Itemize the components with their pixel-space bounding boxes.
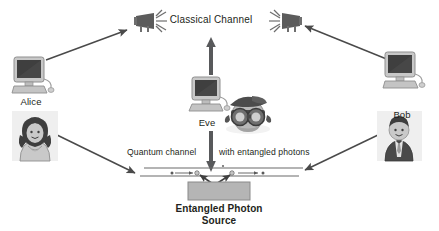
quantum-channel-rails <box>140 168 303 176</box>
diagram-vector-layer <box>0 0 439 231</box>
eve-label: Eve <box>199 118 216 128</box>
quantum-channel-label-left: Quantum channel <box>127 148 196 157</box>
entangled-photon-source-label: Entangled Photon Source <box>175 203 262 226</box>
eve-spy-avatar-icon <box>225 96 271 134</box>
arrow-bob-person-to-quantum-channel <box>305 135 378 170</box>
alice-avatar-icon <box>12 111 58 161</box>
qkd-eavesdropping-diagram: Classical Channel Alice Bob Eve Quantum … <box>0 0 439 231</box>
photon-markers <box>171 165 265 175</box>
quantum-channel-label-right: with entangled photons <box>219 148 310 157</box>
bob-computer-icon <box>383 52 425 88</box>
arrow-alice-person-to-quantum-channel <box>57 135 135 173</box>
source-label-line1: Entangled Photon <box>175 203 262 214</box>
arrow-eve-to-classical-channel <box>206 37 216 75</box>
entangled-photon-source-box <box>188 182 250 200</box>
bob-label: Bob <box>393 110 410 120</box>
classical-channel-label: Classical Channel <box>170 15 253 25</box>
arrow-eve-to-quantum-channel <box>206 131 216 172</box>
arrow-alice-to-left-transmitter <box>46 30 127 60</box>
left-transmitter-icon <box>134 10 167 32</box>
alice-computer-icon <box>12 57 54 93</box>
source-label-line2: Source <box>202 215 237 226</box>
eve-computer-icon <box>189 77 230 111</box>
alice-label: Alice <box>20 97 41 107</box>
right-transmitter-icon <box>269 10 302 32</box>
arrow-bob-to-right-transmitter <box>305 26 389 60</box>
